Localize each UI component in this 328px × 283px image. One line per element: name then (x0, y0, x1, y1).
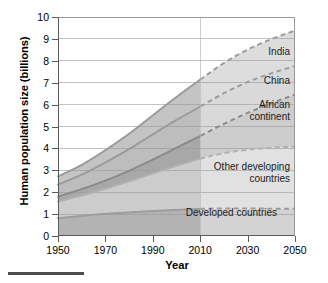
x-tick (153, 236, 154, 242)
y-tick-label: 10 (37, 11, 49, 23)
x-tick (248, 236, 249, 242)
y-tick (52, 214, 58, 215)
bottom-rule-decoration (8, 272, 84, 275)
y-tick (52, 105, 58, 106)
y-tick-label: 3 (43, 164, 49, 176)
x-tick (200, 236, 201, 242)
x-tick (105, 236, 106, 242)
x-tick-label: 2050 (283, 244, 306, 256)
y-tick-label: 1 (43, 208, 49, 220)
series-label-african-continent: African continent (249, 99, 290, 122)
series-label-india: India (268, 46, 290, 58)
y-tick (52, 39, 58, 40)
y-tick-label: 7 (43, 77, 49, 89)
series-label-china: China (264, 75, 290, 87)
series-label-developed-countries: Developed countries (186, 207, 277, 219)
y-tick-label: 8 (43, 55, 49, 67)
series-label-other-developing-countries: Other developing countries (214, 161, 290, 184)
y-tick-label: 5 (43, 121, 49, 133)
y-tick (52, 83, 58, 84)
y-tick-label: 0 (43, 230, 49, 242)
y-tick (52, 17, 58, 18)
y-tick (52, 127, 58, 128)
x-tick-label: 2030 (236, 244, 259, 256)
y-axis-title: Human population size (billions) (18, 11, 30, 231)
x-tick (58, 236, 59, 242)
y-tick-label: 4 (43, 142, 49, 154)
x-tick (295, 236, 296, 242)
y-tick (52, 61, 58, 62)
chart-canvas (58, 17, 295, 236)
y-tick-label: 2 (43, 186, 49, 198)
x-tick-label: 1990 (141, 244, 164, 256)
y-tick (52, 148, 58, 149)
x-axis-title: Year (58, 259, 296, 271)
plot-area: 012345678910 195019701990201020302050 De… (58, 17, 295, 236)
chart-figure: Human population size (billions) Year 01… (0, 0, 328, 283)
x-tick-label: 1950 (46, 244, 69, 256)
y-tick-label: 6 (43, 99, 49, 111)
y-tick (52, 170, 58, 171)
x-tick-label: 2010 (189, 244, 212, 256)
x-tick-label: 1970 (94, 244, 117, 256)
y-tick (52, 192, 58, 193)
y-tick-label: 9 (43, 33, 49, 45)
